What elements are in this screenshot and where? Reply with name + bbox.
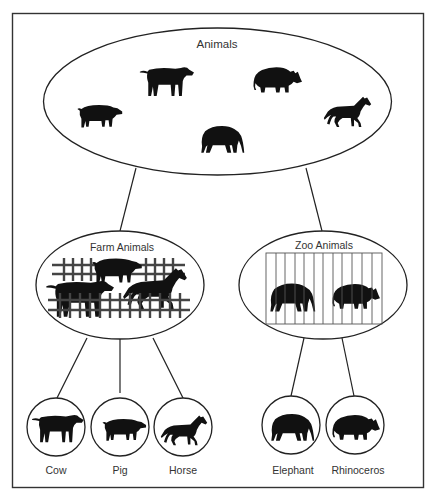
farm-animals-label: Farm Animals	[90, 241, 154, 253]
leaf-cow: Cow	[27, 398, 85, 476]
node-farm-animals: Farm Animals	[36, 231, 204, 339]
animals-label: Animals	[197, 38, 238, 50]
leaf-rhinoceros: Rhinoceros	[326, 396, 385, 476]
elephant-label: Elephant	[272, 464, 314, 476]
node-zoo-animals: Zoo Animals	[239, 231, 407, 339]
pig-label: Pig	[112, 464, 127, 476]
leaf-pig: Pig	[91, 398, 149, 476]
node-animals: Animals	[44, 28, 392, 175]
horse-label: Horse	[169, 464, 197, 476]
leaf-elephant: Elephant	[262, 396, 320, 476]
cow-label: Cow	[45, 464, 66, 476]
zoo-animals-label: Zoo Animals	[295, 239, 353, 251]
leaf-horse: Horse	[154, 398, 212, 476]
rhinoceros-label: Rhinoceros	[331, 464, 384, 476]
animals-ellipse	[44, 28, 392, 175]
animals-classification-diagram: Animals Farm Animals	[0, 0, 435, 493]
